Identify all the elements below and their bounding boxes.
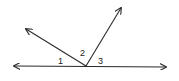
left-ray-arrow-icon xyxy=(26,29,86,66)
diagram-svg: 1 2 3 xyxy=(0,0,179,81)
horizontal-line xyxy=(14,66,166,67)
angle-label-3: 3 xyxy=(98,56,103,66)
angle-diagram: 1 2 3 xyxy=(0,0,179,81)
vertex-point xyxy=(85,65,87,67)
angle-label-2: 2 xyxy=(80,48,85,58)
angle-label-1: 1 xyxy=(58,56,63,66)
upper-ray-arrow-icon xyxy=(86,8,121,66)
